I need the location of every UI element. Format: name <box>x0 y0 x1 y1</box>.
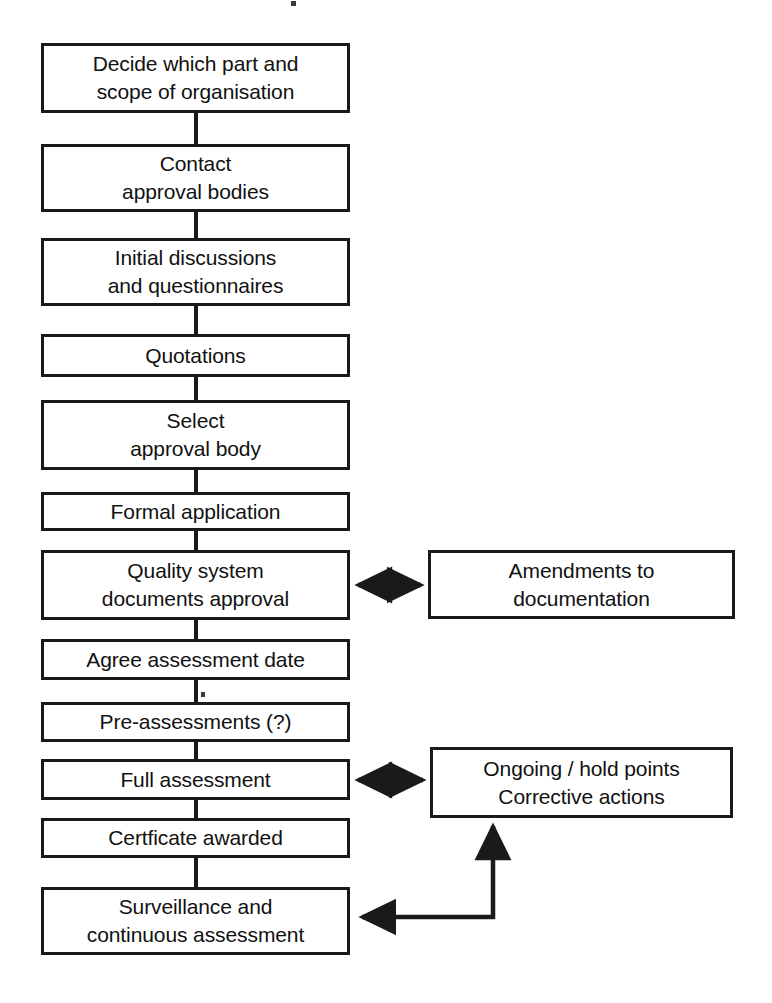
node-line: scope of organisation <box>97 78 295 106</box>
node-decide-scope[interactable]: Decide which part and scope of organisat… <box>41 43 350 113</box>
node-line: and questionnaires <box>108 272 284 300</box>
node-line: Corrective actions <box>498 783 664 811</box>
node-line: Contact <box>160 150 232 178</box>
node-line: Agree assessment date <box>86 646 305 674</box>
node-line: approval bodies <box>122 178 269 206</box>
node-line: Ongoing / hold points <box>483 755 679 783</box>
node-contact-bodies[interactable]: Contact approval bodies <box>41 144 350 212</box>
node-line: Full assessment <box>120 766 270 794</box>
node-line: Formal application <box>111 498 281 526</box>
arrow-ongoing-to-surveillance <box>362 826 493 917</box>
node-line: Pre-assessments (?) <box>100 708 292 736</box>
node-formal-application[interactable]: Formal application <box>41 492 350 531</box>
node-agree-date[interactable]: Agree assessment date <box>41 639 350 680</box>
node-quality-documents[interactable]: Quality system documents approval <box>41 550 350 620</box>
node-line: Certficate awarded <box>108 824 282 852</box>
node-line: documents approval <box>102 585 289 613</box>
node-surveillance[interactable]: Surveillance and continuous assessment <box>41 887 350 955</box>
node-line: Select <box>167 407 225 435</box>
node-initial-discussions[interactable]: Initial discussions and questionnaires <box>41 238 350 306</box>
node-line: Initial discussions <box>115 244 277 272</box>
node-line: continuous assessment <box>87 921 304 949</box>
node-pre-assessments[interactable]: Pre-assessments (?) <box>41 702 350 742</box>
node-line: Amendments to <box>509 557 655 585</box>
node-amendments[interactable]: Amendments to documentation <box>428 550 735 619</box>
node-line: approval body <box>130 435 261 463</box>
node-line: Decide which part and <box>93 50 299 78</box>
flowchart-canvas: Decide which part and scope of organisat… <box>0 0 772 1003</box>
node-full-assessment[interactable]: Full assessment <box>41 759 350 800</box>
node-ongoing-actions[interactable]: Ongoing / hold points Corrective actions <box>430 747 733 818</box>
node-select-body[interactable]: Select approval body <box>41 400 350 470</box>
node-line: Surveillance and <box>119 893 273 921</box>
node-line: Quotations <box>145 342 246 370</box>
node-quotations[interactable]: Quotations <box>41 334 350 377</box>
node-certificate-awarded[interactable]: Certficate awarded <box>41 818 350 858</box>
node-line: documentation <box>513 585 649 613</box>
node-line: Quality system <box>127 557 263 585</box>
